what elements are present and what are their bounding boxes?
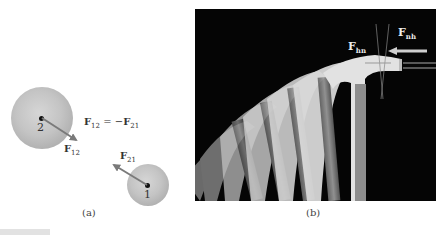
- equation-newtons-third-law: F12 = −F21: [84, 116, 139, 130]
- label-fhn: Fhn: [348, 40, 366, 55]
- label-f21: F21: [120, 150, 136, 164]
- caption-b: (b): [306, 207, 320, 218]
- label-f12: F12: [64, 143, 80, 157]
- arrow-f21-icon: [114, 165, 147, 185]
- panel-b-hammer-photo: Fhn Fnh: [195, 9, 436, 201]
- caption-a: (a): [82, 207, 96, 218]
- arrow-f12-icon: [42, 118, 76, 140]
- bottom-edge-strip: [0, 229, 50, 235]
- label-fnh: Fnh: [398, 26, 416, 41]
- panel-a: 2 1 F12 F21 F12 = −F21 (a): [0, 0, 195, 235]
